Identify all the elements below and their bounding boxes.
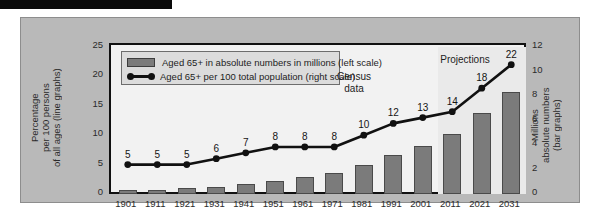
- point-label-2021: 18: [476, 72, 487, 83]
- right-tick-8: 8: [532, 88, 537, 99]
- right-tick-10: 10: [532, 64, 543, 75]
- data-point-2031: [508, 61, 515, 68]
- data-point-2021: [478, 85, 485, 92]
- point-label-1951: 8: [272, 131, 278, 142]
- x-label-1991: 1991: [381, 198, 402, 209]
- data-point-1981: [360, 132, 367, 139]
- x-label-1921: 1921: [174, 198, 195, 209]
- x-label-2011: 2011: [440, 198, 460, 209]
- legend-item-line: Aged 65+ per 100 total population (right…: [127, 69, 334, 83]
- data-point-1961: [301, 144, 308, 151]
- point-label-1901: 5: [125, 149, 131, 160]
- line-marker-icon: [127, 72, 155, 81]
- data-point-1941: [242, 149, 249, 156]
- left-axis-title: Percentage per 100 persons of all ages (…: [29, 58, 63, 178]
- point-label-1981: 10: [358, 119, 369, 130]
- left-tick-25: 25: [73, 39, 103, 50]
- right-tick-12: 12: [532, 39, 543, 50]
- data-point-1901: [124, 161, 131, 168]
- point-label-2001: 13: [417, 102, 428, 113]
- point-label-1991: 12: [388, 107, 399, 118]
- x-label-1911: 1911: [145, 198, 165, 209]
- right-tick-2: 2: [532, 162, 537, 173]
- legend-label-line: Aged 65+ per 100 total population (right…: [160, 71, 355, 82]
- right-tick-4: 4: [532, 137, 537, 148]
- left-tick-15: 15: [73, 98, 103, 109]
- data-point-1911: [154, 161, 161, 168]
- x-label-1981: 1981: [351, 198, 372, 209]
- x-label-1901: 1901: [115, 198, 136, 209]
- point-label-1941: 7: [243, 137, 249, 148]
- x-label-1951: 1951: [263, 198, 284, 209]
- legend: Aged 65+ in absolute numbers in millions…: [121, 51, 340, 85]
- x-label-2021: 2021: [469, 198, 490, 209]
- data-point-1921: [183, 161, 190, 168]
- x-label-1941: 1941: [233, 198, 254, 209]
- left-tick-5: 5: [73, 157, 103, 168]
- data-point-1971: [331, 144, 338, 151]
- x-label-1971: 1971: [322, 198, 343, 209]
- data-point-1951: [272, 144, 279, 151]
- point-label-1911: 5: [154, 149, 160, 160]
- x-label-1931: 1931: [204, 198, 225, 209]
- legend-label-bars: Aged 65+ in absolute numbers in millions…: [162, 57, 382, 68]
- data-point-1931: [213, 155, 220, 162]
- right-tick-6: 6: [532, 113, 537, 124]
- page-edge-strip: [0, 0, 172, 9]
- annotation-census-data: Census data: [327, 71, 381, 94]
- left-tick-10: 10: [73, 127, 103, 138]
- annotation-projections: Projections: [425, 54, 505, 66]
- data-point-1991: [390, 120, 397, 127]
- point-label-1921: 5: [184, 149, 190, 160]
- data-point-2011: [449, 108, 456, 115]
- x-label-2031: 2031: [499, 198, 520, 209]
- point-label-1931: 6: [213, 143, 219, 154]
- x-label-1961: 1961: [292, 198, 313, 209]
- chart-screenshot: Percentage per 100 persons of all ages (…: [0, 0, 598, 215]
- right-tick-0: 0: [532, 186, 537, 197]
- point-label-1961: 8: [302, 131, 308, 142]
- figure-panel: Percentage per 100 persons of all ages (…: [20, 17, 580, 203]
- left-tick-0: 0: [73, 186, 103, 197]
- point-label-2011: 14: [447, 96, 458, 107]
- left-tick-20: 20: [73, 68, 103, 79]
- data-point-2001: [419, 114, 426, 121]
- point-label-1971: 8: [331, 131, 337, 142]
- bar-swatch-icon: [127, 58, 155, 67]
- legend-item-bars: Aged 65+ in absolute numbers in millions…: [127, 55, 334, 69]
- point-label-2031: 22: [506, 49, 517, 60]
- x-label-2001: 2001: [410, 198, 431, 209]
